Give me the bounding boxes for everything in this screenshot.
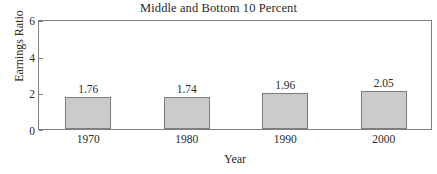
x-axis-title: Year: [38, 152, 432, 167]
x-axis-tick-label: 1980: [175, 133, 198, 146]
bar: 2.052000: [361, 91, 407, 129]
y-axis-tick-label: 2: [29, 88, 35, 100]
y-axis-tick-mark: [39, 21, 43, 22]
bar-value-label: 2.05: [374, 77, 394, 90]
y-axis-tick-label: 6: [29, 15, 35, 27]
bar: 1.741980: [164, 97, 210, 129]
y-axis-title: Earnings Ratio: [11, 0, 27, 103]
plot-area: 02461.7619701.7419801.9619902.052000: [38, 20, 432, 130]
y-axis-tick-label: 4: [29, 52, 35, 64]
plot-inner: 02461.7619701.7419801.9619902.052000: [39, 21, 431, 129]
y-axis-tick-mark: [39, 130, 43, 131]
y-axis-tick-mark: [39, 94, 43, 95]
y-axis-tick-label: 0: [29, 125, 35, 137]
bar-value-label: 1.96: [275, 79, 295, 92]
bar: 1.961990: [262, 93, 308, 129]
y-axis-tick-mark: [39, 58, 43, 59]
x-axis-tick-label: 2000: [372, 133, 395, 146]
bar: 1.761970: [65, 97, 111, 129]
chart-title: Middle and Bottom 10 Percent: [0, 1, 437, 16]
bar-value-label: 1.74: [177, 83, 197, 96]
x-axis-tick-label: 1990: [274, 133, 297, 146]
bar-value-label: 1.76: [78, 83, 98, 96]
bar-chart: Middle and Bottom 10 Percent Earnings Ra…: [0, 0, 437, 174]
x-axis-tick-label: 1970: [77, 133, 100, 146]
